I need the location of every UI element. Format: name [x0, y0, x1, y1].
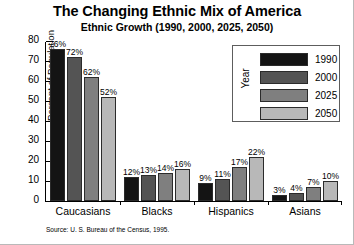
bar-rect — [215, 179, 230, 201]
bar-rect — [306, 187, 321, 201]
x-axis-separator-tick — [120, 201, 121, 205]
y-axis-tick-label: 50 — [28, 94, 39, 105]
bar-rect — [158, 173, 173, 201]
bar-rect — [323, 181, 338, 201]
x-axis-separator-tick — [268, 201, 269, 205]
bar-value-label: 16% — [174, 159, 191, 169]
x-axis-category-label: Caucasians — [56, 205, 111, 217]
bar-value-label: 12% — [123, 167, 140, 177]
legend-color-swatch — [260, 89, 308, 102]
x-axis-category-label: Blacks — [142, 205, 173, 217]
bar-value-label: 3% — [273, 185, 285, 195]
y-axis-tick-label: 40 — [28, 114, 39, 125]
x-axis-separator-tick — [194, 201, 195, 205]
bar-rect — [124, 177, 139, 201]
bar-value-label: 17% — [231, 157, 248, 167]
bar-value-label: 4% — [290, 183, 302, 193]
legend-color-swatch — [260, 107, 308, 120]
legend: Year 1990200020252050 — [232, 45, 340, 122]
y-axis-tick-label: 20 — [28, 154, 39, 165]
bar-rect — [175, 169, 190, 201]
x-axis-category-label: Hispanics — [208, 205, 254, 217]
bar-rect — [50, 49, 65, 201]
bar-rect — [289, 193, 304, 201]
bar-group: 76%72%62%52%Caucasians — [50, 42, 116, 201]
bar-value-label: 9% — [199, 173, 211, 183]
legend-color-swatch — [260, 71, 308, 84]
ethnic-mix-bar-chart: The Changing Ethnic Mix of America Ethni… — [0, 0, 354, 245]
bar-rect — [84, 77, 99, 201]
y-axis-tick-label: 30 — [28, 134, 39, 145]
y-axis-tick-label: 0 — [33, 194, 39, 205]
y-axis-tick-label: 10 — [28, 174, 39, 185]
legend-item-label: 2000 — [315, 72, 337, 83]
legend-item-label: 2050 — [315, 108, 337, 119]
source-note: Source: U. S. Bureau of the Census, 1995… — [46, 226, 169, 233]
bar-rect — [249, 157, 264, 201]
bar-group: 12%13%14%16%Blacks — [124, 42, 190, 201]
y-axis-tick-label: 60 — [28, 74, 39, 85]
bar-value-label: 22% — [248, 147, 265, 157]
legend-color-swatch — [260, 53, 308, 66]
x-axis-category-label: Asians — [289, 205, 321, 217]
legend-item-label: 2025 — [315, 90, 337, 101]
bar-value-label: 14% — [157, 163, 174, 173]
bar-value-label: 72% — [66, 47, 83, 57]
bar-rect — [141, 175, 156, 201]
legend-item-label: 1990 — [315, 54, 337, 65]
bar-value-label: 10% — [322, 171, 339, 181]
bar-rect — [198, 183, 213, 201]
bar-value-label: 52% — [100, 87, 117, 97]
bar-value-label: 11% — [214, 169, 230, 179]
legend-title: Year — [240, 53, 251, 105]
bar-rect — [101, 97, 116, 201]
bar-value-label: 13% — [140, 165, 157, 175]
bar-rect — [232, 167, 247, 201]
bar-value-label: 76% — [49, 39, 66, 49]
bar-rect — [272, 195, 287, 201]
bar-rect — [67, 57, 82, 201]
x-axis-separator-tick — [341, 201, 342, 205]
bar-value-label: 7% — [307, 177, 319, 187]
y-axis-tick-label: 70 — [28, 54, 39, 65]
y-axis-tick-label: 80 — [28, 34, 39, 45]
bar-value-label: 62% — [83, 67, 100, 77]
